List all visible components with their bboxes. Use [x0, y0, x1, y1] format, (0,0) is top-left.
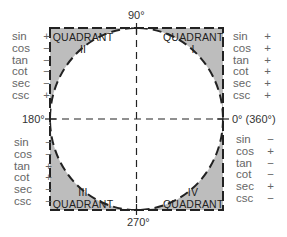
quadrant-iv-label: IV QUADRANT: [163, 186, 223, 210]
quadrant-numeral: III: [52, 186, 114, 198]
quadrant-iii-label: III QUADRANT: [52, 186, 114, 210]
label-90: 90°: [128, 9, 145, 21]
quadrant-word: QUADRANT: [52, 198, 114, 210]
quadrant-i-label: QUADRANT I: [163, 31, 223, 55]
quadrant-word: QUADRANT: [52, 31, 114, 43]
label-180: 180°: [22, 113, 45, 125]
quadrant-numeral: II: [52, 43, 114, 55]
label-0-360: 0° (360°): [232, 113, 276, 125]
quadrant-numeral: I: [163, 43, 223, 55]
signs-quadrant-iii: sin− cos− tan+ cot+ sec− csc−: [14, 137, 52, 208]
quadrant-ii-label: QUADRANT II: [52, 31, 114, 55]
quadrant-numeral: IV: [163, 186, 223, 198]
signs-quadrant-i: sin+ cos+ tan+ cot+ sec+ csc+: [233, 31, 271, 102]
signs-quadrant-ii: sin+ cos− tan− cot− sec− csc+: [12, 31, 50, 102]
quadrant-word: QUADRANT: [163, 31, 223, 43]
signs-quadrant-iv: sin− cos+ tan− cot− sec+ csc−: [236, 134, 274, 205]
quadrant-word: QUADRANT: [163, 198, 223, 210]
label-270: 270°: [127, 216, 150, 228]
